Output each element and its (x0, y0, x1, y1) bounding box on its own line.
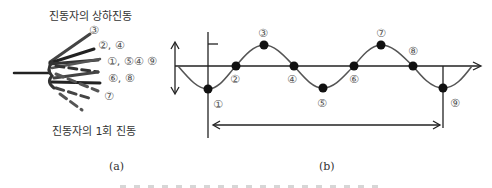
pendulum-strokes (14, 34, 100, 110)
point-label-6: ⑥ (349, 73, 359, 86)
point-label-2: ② (230, 73, 240, 86)
truncated-caption (120, 185, 380, 188)
point-label-5: ⑤ (317, 97, 327, 110)
label-7: ⑦ (104, 90, 114, 103)
point-label-8: ⑧ (408, 45, 418, 58)
panel-a-title-top: 진동자의 상하진동 (49, 7, 133, 23)
point-label-1: ① (213, 98, 223, 111)
label-1-5-9: ①, ⑤④ ⑨ (107, 55, 157, 68)
point-label-7: ⑦ (376, 27, 386, 40)
panel-a-title-bottom: 진동자의 1회 진동 (52, 122, 136, 138)
label-6-8: ⑥, ⑧ (108, 72, 135, 85)
point-label-9: ⑨ (450, 97, 460, 110)
wave-curve (178, 45, 472, 89)
panel-b-caption: (b) (319, 160, 335, 173)
label-2-4: ②, ④ (98, 39, 125, 52)
label-3: ③ (89, 24, 99, 37)
point-label-3: ③ (258, 27, 268, 40)
panel-a-caption: (a) (109, 160, 124, 173)
point-label-4: ④ (287, 73, 297, 86)
vibration-diagram (0, 0, 492, 188)
